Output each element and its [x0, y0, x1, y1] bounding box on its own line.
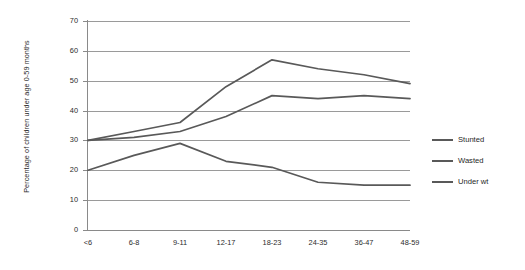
y-tick-label-10: 10 — [44, 195, 78, 204]
x-tick-label-0: <6 — [65, 238, 111, 247]
gridline-40 — [88, 111, 410, 112]
plot-area — [88, 21, 410, 230]
x-tick-label-1: 6-8 — [111, 238, 157, 247]
gridline-60 — [88, 51, 410, 52]
gridline-70 — [88, 21, 410, 22]
y-tick-label-70: 70 — [44, 16, 78, 25]
legend-line-swatch-icon — [432, 160, 453, 162]
gridline-0 — [88, 230, 410, 231]
x-tick-label-2: 9-11 — [157, 238, 203, 247]
legend-line-swatch-icon — [432, 139, 453, 141]
x-tick-label-4: 18-23 — [249, 238, 295, 247]
legend-item-wasted[interactable]: Wasted — [432, 152, 520, 169]
y-axis-title: Percentage of children under age 0-59 mo… — [22, 17, 31, 217]
legend-item-under-wt[interactable]: Under wt — [432, 173, 520, 190]
y-tick-label-30: 30 — [44, 135, 78, 144]
legend-item-label: Wasted — [458, 156, 483, 165]
x-tick-label-5: 24-35 — [295, 238, 341, 247]
legend-line-swatch-icon — [432, 181, 453, 183]
y-tick-label-0: 0 — [44, 225, 78, 234]
gridline-30 — [88, 140, 410, 141]
legend-item-label: Under wt — [458, 177, 488, 186]
x-tick-label-7: 48-59 — [387, 238, 433, 247]
legend-item-stunted[interactable]: Stunted — [432, 131, 520, 148]
legend-item-label: Stunted — [458, 135, 484, 144]
y-tick-label-20: 20 — [44, 165, 78, 174]
y-tick-label-40: 40 — [44, 106, 78, 115]
x-tick-label-6: 36-47 — [341, 238, 387, 247]
gridline-50 — [88, 81, 410, 82]
gridline-10 — [88, 200, 410, 201]
y-tick-label-50: 50 — [44, 76, 78, 85]
gridline-20 — [88, 170, 410, 171]
y-tick-label-60: 60 — [44, 46, 78, 55]
chart-legend: StuntedWastedUnder wt — [432, 131, 520, 194]
x-tick-label-3: 12-17 — [203, 238, 249, 247]
line-chart-figure: Percentage of children under age 0-59 mo… — [0, 0, 525, 270]
